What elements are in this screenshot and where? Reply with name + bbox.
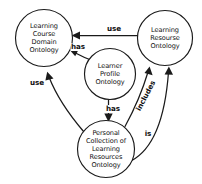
ontology-diagram: Learning Course Domain Ontology Learning…	[0, 0, 202, 184]
arrow-head	[165, 66, 173, 74]
edge-line	[49, 77, 84, 132]
edge-label-has-profile-to-collection: has	[105, 105, 120, 113]
node-learner-profile[interactable]	[85, 49, 136, 100]
node-learning-resourse[interactable]	[138, 11, 193, 66]
node-course-domain[interactable]	[16, 10, 73, 67]
diagram-canvas	[0, 0, 202, 184]
edge-label-use-resourse-to-course: use	[106, 25, 121, 33]
edge-label-is-collection-to-resourse: is	[144, 130, 152, 138]
edge-label-use-collection-to-course: use	[29, 79, 44, 87]
node-personal-collection[interactable]	[78, 121, 135, 178]
edge-use-resourse-to-course	[72, 31, 138, 39]
edge-use-collection-to-course	[45, 72, 84, 132]
edge-label-has-profile-to-course: has	[70, 43, 85, 51]
arrow-head	[45, 72, 53, 81]
arrow-head	[145, 67, 153, 76]
